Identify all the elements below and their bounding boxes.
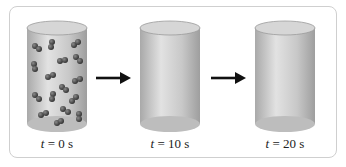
cylinder-t0 [24,19,90,134]
time-variable: t [266,136,270,151]
time-variable: t [151,136,155,151]
arrow-right-icon [211,71,247,85]
time-value: = 10 s [157,136,189,151]
time-value: = 20 s [272,136,304,151]
time-label-t0: t = 0 s [17,136,97,152]
time-label-t20: t = 20 s [245,136,325,152]
arrow-right-icon [96,71,132,85]
cylinder-t10 [137,19,203,134]
time-variable: t [41,136,45,151]
time-label-t10: t = 10 s [130,136,210,152]
cylinder-t20 [252,19,318,134]
time-value: = 0 s [48,136,73,151]
